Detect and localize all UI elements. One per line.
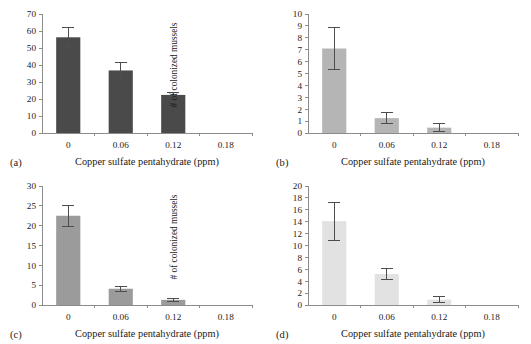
plot-area-d: 0246810121416182000.060.120.18: [266, 172, 531, 344]
figure-root: 01020304050607000.060.120.18 # of coloni…: [0, 0, 531, 344]
y-tick-label: 15: [27, 241, 37, 251]
y-axis-label-text-b: # of colonized mussels: [166, 23, 182, 108]
panel-d: 0246810121416182000.060.120.18 # of colo…: [266, 172, 531, 344]
y-tick-label: 5: [31, 280, 36, 290]
y-tick-label: 0: [297, 300, 302, 310]
y-tick-label: 60: [27, 26, 37, 36]
y-tick-label: 1: [297, 116, 302, 126]
x-tick-label: 0.12: [431, 140, 447, 150]
y-tick-label: 5: [297, 69, 302, 79]
x-tick-label: 0: [66, 140, 71, 150]
y-tick-label: 20: [27, 221, 37, 231]
y-tick-label: 9: [297, 21, 302, 31]
plot-area-c: 05101520253000.060.120.18: [0, 172, 265, 344]
x-tick-label: 0: [332, 312, 337, 322]
x-axis-label-a: Copper sulfate pentahydrate (ppm): [42, 157, 252, 167]
x-axis-label-c: Copper sulfate pentahydrate (ppm): [42, 329, 252, 339]
y-tick-label: 30: [27, 77, 37, 87]
y-tick-label: 10: [293, 241, 303, 251]
x-tick-label: 0.06: [379, 312, 395, 322]
y-tick-label: 18: [293, 193, 303, 203]
x-tick-label: 0.18: [218, 140, 234, 150]
y-tick-label: 16: [293, 205, 303, 215]
y-tick-label: 70: [27, 9, 37, 19]
x-tick-label: 0: [332, 140, 337, 150]
plot-area-b: 01234567891000.060.120.18: [266, 0, 531, 172]
bar-chart-d: 0246810121416182000.060.120.18: [266, 172, 531, 344]
bar: [56, 37, 80, 133]
y-tick-label: 10: [27, 111, 37, 121]
y-tick-label: 3: [297, 93, 302, 103]
x-tick-label: 0.18: [484, 312, 500, 322]
y-tick-label: 14: [293, 217, 303, 227]
bar: [109, 70, 133, 133]
y-tick-label: 50: [27, 43, 37, 53]
y-tick-label: 4: [297, 81, 302, 91]
y-tick-label: 4: [297, 277, 302, 287]
y-tick-label: 6: [297, 265, 302, 275]
bar-chart-c: 05101520253000.060.120.18: [0, 172, 265, 344]
x-tick-label: 0: [66, 312, 71, 322]
y-axis-label-b: # of colonized mussels: [166, 6, 182, 124]
x-axis-label-d: Copper sulfate pentahydrate (ppm): [308, 329, 518, 339]
bar-chart-b: 01234567891000.060.120.18: [266, 0, 531, 172]
y-tick-label: 0: [297, 128, 302, 138]
y-tick-label: 20: [27, 94, 37, 104]
y-tick-label: 10: [27, 261, 37, 271]
y-tick-label: 30: [27, 181, 37, 191]
x-tick-label: 0.18: [218, 312, 234, 322]
x-tick-label: 0.12: [431, 312, 447, 322]
x-tick-label: 0.12: [165, 140, 181, 150]
panel-tag-d: (d): [276, 330, 289, 341]
y-tick-label: 8: [297, 33, 302, 43]
y-tick-label: 2: [297, 105, 302, 115]
y-tick-label: 8: [297, 253, 302, 263]
bar-chart-a: 01020304050607000.060.120.18: [0, 0, 265, 172]
x-axis-label-b: Copper sulfate pentahydrate (ppm): [308, 157, 518, 167]
y-tick-label: 12: [293, 229, 303, 239]
y-tick-label: 6: [297, 57, 302, 67]
plot-area-a: 01020304050607000.060.120.18: [0, 0, 265, 172]
x-tick-label: 0.18: [484, 140, 500, 150]
error-bar: [167, 298, 179, 301]
y-axis-label-d: # of colonized mussels: [166, 178, 182, 296]
y-tick-label: 7: [297, 45, 302, 55]
y-tick-label: 10: [293, 9, 303, 19]
y-axis-label-text-d: # of colonized mussels: [166, 195, 182, 280]
panel-c: 05101520253000.060.120.18 # of mussels c…: [0, 172, 265, 344]
x-tick-label: 0.06: [113, 140, 129, 150]
panel-tag-a: (a): [10, 158, 22, 169]
y-tick-label: 25: [27, 201, 37, 211]
panel-tag-c: (c): [10, 330, 22, 341]
panel-a: 01020304050607000.060.120.18 # of coloni…: [0, 0, 265, 172]
y-tick-label: 0: [31, 300, 36, 310]
x-tick-label: 0.06: [379, 140, 395, 150]
y-tick-label: 20: [293, 181, 303, 191]
panel-tag-b: (b): [276, 158, 289, 169]
panel-b: 01234567891000.060.120.18 # of colonized…: [266, 0, 531, 172]
x-tick-label: 0.12: [165, 312, 181, 322]
y-tick-label: 0: [31, 128, 36, 138]
x-tick-label: 0.06: [113, 312, 129, 322]
y-tick-label: 40: [27, 60, 37, 70]
bar: [56, 216, 80, 305]
y-tick-label: 2: [297, 288, 302, 298]
